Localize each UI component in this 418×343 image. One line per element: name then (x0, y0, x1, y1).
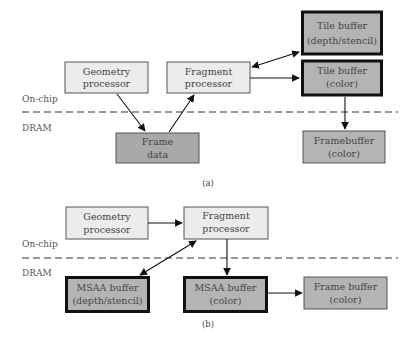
caption-a: (a) (202, 178, 214, 188)
geometry-processor-node: Geometry processor (66, 207, 148, 239)
on-chip-label: On-chip (22, 94, 58, 104)
framebuffer-node: Framebuffer (color) (303, 131, 385, 163)
tile-buffer-color-node: Tile buffer (color) (303, 61, 382, 95)
msaa-buffer-depth-node: MSAA buffer (depth/stencil) (67, 278, 149, 312)
fragment-processor-node: Fragment processor (167, 62, 250, 93)
node-label: processor (83, 224, 131, 235)
node-label: Fragment (202, 210, 250, 221)
caption-b: (b) (202, 319, 214, 329)
arrow-frame-data-to-fragment (169, 95, 194, 132)
node-label: processor (185, 78, 233, 89)
tile-buffer-depth-node: Tile buffer (depth/stencil) (303, 12, 382, 54)
node-label: (color) (330, 294, 362, 305)
node-label: Frame (142, 136, 174, 147)
node-label: (depth/stencil) (72, 295, 142, 306)
node-label: Fragment (185, 66, 233, 77)
node-label: Frame buffer (314, 281, 378, 292)
dram-label: DRAM (22, 268, 52, 278)
node-label: MSAA buffer (76, 282, 139, 293)
node-label: Geometry (83, 66, 131, 77)
msaa-buffer-color-node: MSAA buffer (color) (185, 278, 267, 312)
node-label: MSAA buffer (194, 282, 257, 293)
node-label: (color) (326, 78, 358, 89)
node-label: Geometry (83, 211, 131, 222)
fragment-processor-node: Fragment processor (184, 207, 268, 239)
node-label: data (147, 149, 169, 160)
node-label: Tile buffer (317, 20, 368, 31)
geometry-processor-node: Geometry processor (65, 62, 148, 93)
node-label: (depth/stencil) (307, 35, 377, 46)
dram-label: DRAM (22, 123, 52, 133)
node-label: processor (202, 223, 250, 234)
diagram-a: On-chip DRAM Geometry processor Fragment… (22, 12, 398, 188)
arrow-fragment-tile-depth (252, 52, 299, 67)
frame-data-node: Frame data (116, 133, 199, 163)
node-label: Tile buffer (317, 65, 368, 76)
node-label: (color) (210, 295, 242, 306)
on-chip-label: On-chip (22, 239, 58, 249)
diagram-b: On-chip DRAM Geometry processor Fragment… (22, 207, 398, 329)
frame-buffer-node: Frame buffer (color) (304, 277, 387, 309)
node-label: Framebuffer (314, 135, 375, 146)
memory-architecture-diagram: On-chip DRAM Geometry processor Fragment… (0, 0, 418, 343)
node-label: processor (83, 78, 131, 89)
node-label: (color) (328, 148, 360, 159)
